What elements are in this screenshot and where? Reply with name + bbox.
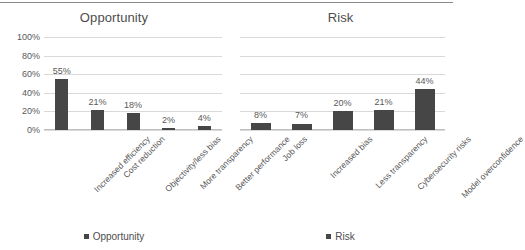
bar[interactable]	[251, 123, 271, 130]
gridline	[44, 93, 222, 94]
bar-value-label: 44%	[415, 76, 433, 86]
bar[interactable]	[374, 110, 394, 130]
chart-title-opportunity: Opportunity	[0, 10, 228, 25]
bar[interactable]	[162, 128, 175, 130]
bar-value-label: 8%	[254, 110, 267, 120]
bar[interactable]	[292, 124, 312, 131]
bar-value-label: 21%	[88, 97, 106, 107]
x-axis-category-label: Objectivity/less bias	[163, 134, 223, 194]
legend-marker-icon	[326, 234, 331, 239]
bar[interactable]	[127, 113, 140, 130]
gridline	[240, 37, 445, 38]
gridline	[44, 111, 222, 112]
plot-area-risk: 8%7%20%21%44%	[240, 37, 445, 130]
gridline	[44, 37, 222, 38]
y-axis-tick-label: 20%	[22, 106, 40, 116]
legend-label-opportunity: Opportunity	[93, 231, 145, 242]
bar-value-label: 7%	[295, 110, 308, 120]
chart-title-risk: Risk	[228, 10, 453, 25]
bar-value-label: 2%	[162, 115, 175, 125]
bar-value-label: 18%	[124, 100, 142, 110]
bar-value-label: 4%	[198, 113, 211, 123]
y-axis-tick-label: 40%	[22, 88, 40, 98]
plot-area-opportunity: 0%20%40%60%80%100%55%21%18%2%4%	[44, 37, 222, 130]
legend-opportunity: Opportunity	[0, 231, 228, 242]
y-axis-tick-label: 0%	[27, 125, 40, 135]
chart-panel-risk: Risk 8%7%20%21%44% Risk Job lossIncrease…	[228, 0, 453, 250]
gridline	[240, 130, 445, 131]
bar[interactable]	[198, 126, 211, 130]
bar-value-label: 21%	[374, 97, 392, 107]
gridline	[240, 56, 445, 57]
y-axis-tick-label: 80%	[22, 51, 40, 61]
y-axis-tick-label: 60%	[22, 69, 40, 79]
bar-value-label: 55%	[53, 66, 71, 76]
bar[interactable]	[415, 89, 435, 130]
bar-value-label: 20%	[333, 98, 351, 108]
gridline	[44, 130, 222, 131]
y-axis-tick-label: 100%	[17, 32, 40, 42]
gridline	[44, 56, 222, 57]
legend-label-risk: Risk	[335, 231, 354, 242]
x-axis-category-label: Increased bias	[328, 134, 374, 180]
bar[interactable]	[333, 111, 353, 130]
legend-marker-icon	[84, 234, 89, 239]
bar[interactable]	[55, 79, 68, 130]
bar[interactable]	[91, 110, 104, 130]
chart-panel-opportunity: Opportunity 0%20%40%60%80%100%55%21%18%2…	[0, 0, 228, 250]
legend-risk: Risk	[228, 231, 453, 242]
gridline	[240, 74, 445, 75]
x-axis-category-label: Job loss	[280, 134, 309, 163]
